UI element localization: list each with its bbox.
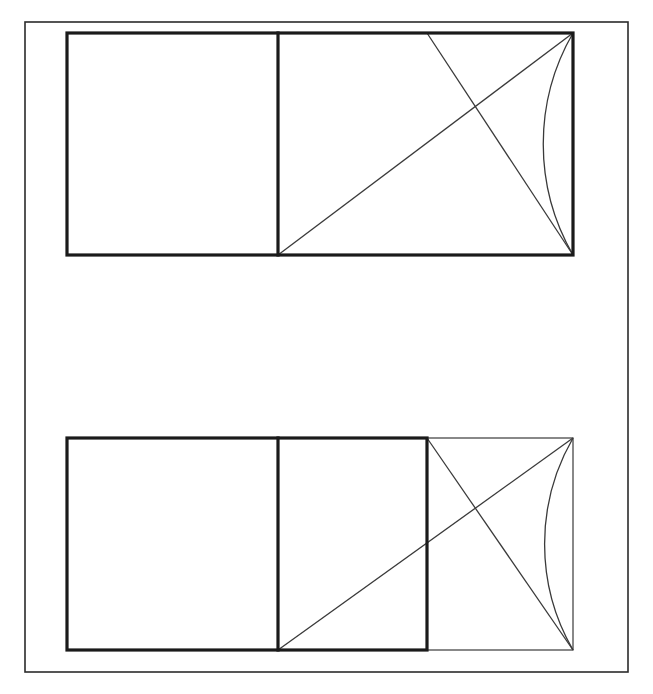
upper-figure-arc [543, 33, 573, 255]
figure-page [0, 0, 653, 694]
lower-figure-bold-rectangle [67, 438, 427, 650]
lower-figure [67, 438, 573, 650]
geometric-diagram-canvas [0, 0, 653, 694]
lower-figure-arc [545, 438, 573, 650]
upper-figure-outer-rectangle [67, 33, 573, 255]
upper-figure-rising-diagonal [278, 33, 573, 255]
upper-figure [67, 33, 573, 255]
upper-figure-falling-diagonal [427, 33, 573, 255]
lower-figure-falling-diagonal [427, 438, 573, 650]
outer-page-border [25, 22, 628, 672]
